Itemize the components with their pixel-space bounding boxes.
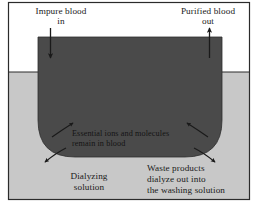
label-dialyzing-solution: Dialyzing solution	[52, 171, 126, 193]
label-impure-blood-in: Impure blood in	[14, 6, 108, 27]
label-purified-blood-out: Purified blood out	[162, 6, 254, 27]
label-waste-products: Waste products dialyze out into the wash…	[147, 163, 251, 196]
label-essential-ions-remain: Essential ions and molecules remain in b…	[72, 129, 192, 149]
dialysis-diagram: Impure blood in Purified blood out Essen…	[0, 0, 259, 212]
